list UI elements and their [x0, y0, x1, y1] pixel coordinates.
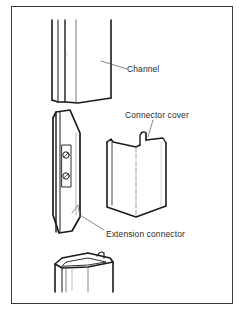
extension-connector-label: Extension connector	[106, 229, 185, 239]
lower-channel-part	[55, 252, 113, 292]
connector-cover-part	[107, 132, 166, 217]
leader-connector-cover	[148, 120, 153, 137]
leader-channel	[101, 61, 127, 69]
channel-label: Channel	[127, 64, 159, 74]
assembly-illustration	[0, 0, 239, 315]
connector-cover-label: Connector cover	[125, 110, 189, 120]
leader-extension-connector	[80, 215, 104, 230]
extension-connector-part	[53, 110, 80, 233]
leader-lines	[80, 61, 153, 230]
